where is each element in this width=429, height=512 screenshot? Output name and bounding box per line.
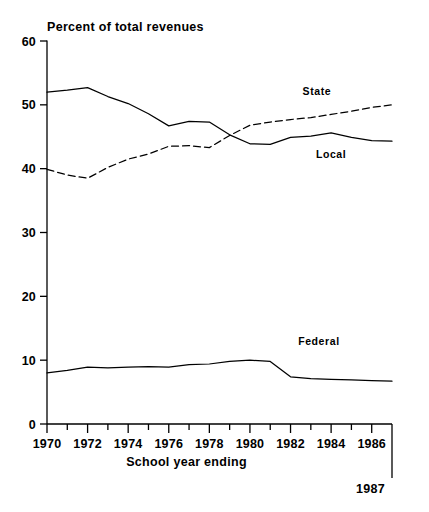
series-line-federal bbox=[47, 360, 392, 381]
y-tick-label-0: 0 bbox=[29, 418, 36, 432]
x-tick-label-1972: 1972 bbox=[73, 437, 102, 451]
series-label-federal: Federal bbox=[298, 335, 340, 347]
series-line-state bbox=[47, 105, 392, 178]
chart-root: 0102030405060197019721974197619781980198… bbox=[0, 0, 429, 512]
axes-group: 0102030405060197019721974197619781980198… bbox=[22, 35, 392, 479]
chart-svg: 0102030405060197019721974197619781980198… bbox=[0, 0, 429, 512]
y-tick-label-60: 60 bbox=[22, 35, 36, 49]
x-tick-label-1984: 1984 bbox=[317, 437, 346, 451]
x-axis-title-text: School year ending bbox=[126, 455, 247, 469]
x-tick-label-1986: 1986 bbox=[357, 437, 386, 451]
y-tick-label-50: 50 bbox=[22, 98, 36, 112]
x-tick-label-1970: 1970 bbox=[33, 437, 62, 451]
x-tick-label-1976: 1976 bbox=[154, 437, 183, 451]
x-tick-label-1978: 1978 bbox=[195, 437, 224, 451]
x-axis-end-label: 1987 bbox=[356, 482, 385, 496]
y-tick-label-20: 20 bbox=[22, 290, 36, 304]
y-tick-label-30: 30 bbox=[22, 226, 36, 240]
series-label-state: State bbox=[303, 85, 332, 97]
series-label-local: Local bbox=[316, 148, 346, 160]
x-tick-label-1982: 1982 bbox=[276, 437, 305, 451]
y-tick-label-10: 10 bbox=[22, 354, 36, 368]
y-tick-label-40: 40 bbox=[22, 162, 36, 176]
x-tick-label-1980: 1980 bbox=[236, 437, 265, 451]
x-tick-label-1974: 1974 bbox=[114, 437, 143, 451]
series-line-local bbox=[47, 88, 392, 145]
y-axis-title: Percent of total revenues bbox=[47, 20, 204, 34]
plot-area: 0102030405060197019721974197619781980198… bbox=[0, 0, 429, 512]
x-axis-title: School year ending bbox=[0, 455, 429, 469]
